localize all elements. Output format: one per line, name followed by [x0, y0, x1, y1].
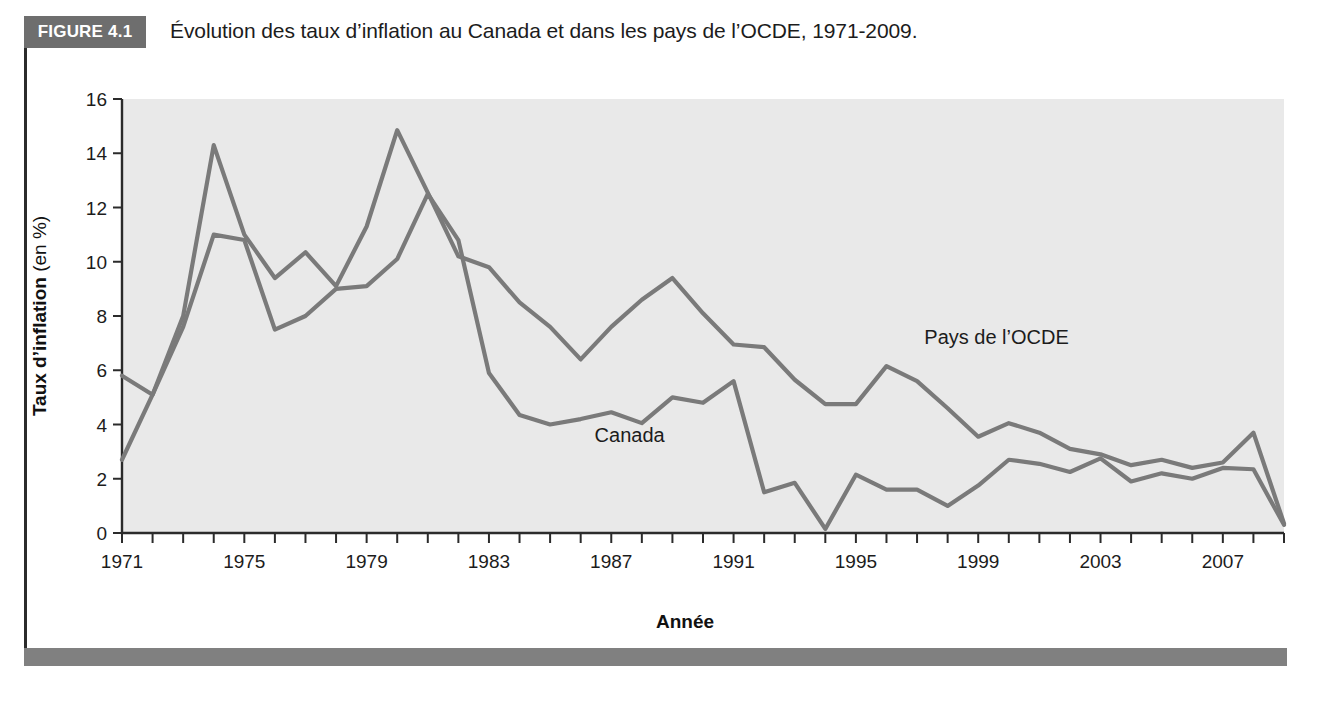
y-axis-tick-label: 16: [86, 89, 107, 110]
y-axis-tick-label: 12: [86, 198, 107, 219]
series-line-canada: [122, 194, 1284, 529]
x-axis-tick-label: 1979: [345, 551, 387, 572]
y-axis-tick-label: 8: [96, 306, 107, 327]
x-axis-tick-label: 1975: [223, 551, 265, 572]
x-axis-tick-label: 2003: [1079, 551, 1121, 572]
series-label-ocde: Pays de l’OCDE: [924, 326, 1069, 348]
x-axis-tick-label: 1987: [590, 551, 632, 572]
x-axis-tick-label: 1971: [101, 551, 143, 572]
footer-bar: [24, 648, 1287, 666]
x-axis-tick-label: 1983: [468, 551, 510, 572]
line-chart-svg: 0246810121416197119751979198319871991199…: [0, 0, 1319, 707]
y-axis-tick-label: 10: [86, 252, 107, 273]
y-axis-tick-label: 0: [96, 523, 107, 544]
x-axis-tick-label: 1999: [957, 551, 999, 572]
x-axis-tick-label: 2007: [1202, 551, 1244, 572]
series-label-canada: Canada: [595, 424, 666, 446]
x-axis-title: Année: [656, 611, 714, 632]
y-axis-title: Taux d’inflation (en %): [29, 216, 50, 416]
chart-area: 0246810121416197119751979198319871991199…: [0, 0, 1319, 707]
y-axis-tick-label: 6: [96, 360, 107, 381]
figure-root: FIGURE 4.1 Évolution des taux d’inflatio…: [0, 0, 1319, 707]
x-axis-tick-label: 1991: [712, 551, 754, 572]
x-axis-tick-label: 1995: [835, 551, 877, 572]
y-axis-tick-label: 4: [96, 415, 107, 436]
y-axis-tick-label: 2: [96, 469, 107, 490]
y-axis-tick-label: 14: [86, 143, 108, 164]
